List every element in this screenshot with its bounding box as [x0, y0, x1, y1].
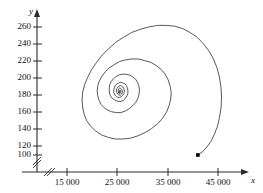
chart-figure: 260 240 220 200 180 160 140 120 100 15 0…: [0, 0, 263, 193]
y-tick-label-160: 160: [0, 106, 31, 116]
y-tick-label-100: 100: [0, 149, 31, 159]
y-tick-label-220: 220: [0, 55, 31, 65]
y-tick-label-180: 180: [0, 89, 31, 99]
x-tick-label-45000: 45 000: [188, 177, 248, 187]
y-tick-label-260: 260: [0, 21, 31, 31]
start-point-marker: [196, 153, 200, 157]
y-axis-label: y: [29, 6, 33, 16]
y-tick-label-200: 200: [0, 72, 31, 82]
x-axis-arrow-icon: [241, 169, 249, 175]
x-axis-label: x: [251, 175, 255, 185]
y-tick-label-140: 140: [0, 123, 31, 133]
y-tick-label-240: 240: [0, 38, 31, 48]
y-axis-arrow-icon: [34, 9, 40, 17]
plot-area: [0, 0, 263, 193]
trajectory-curve: [82, 25, 221, 155]
